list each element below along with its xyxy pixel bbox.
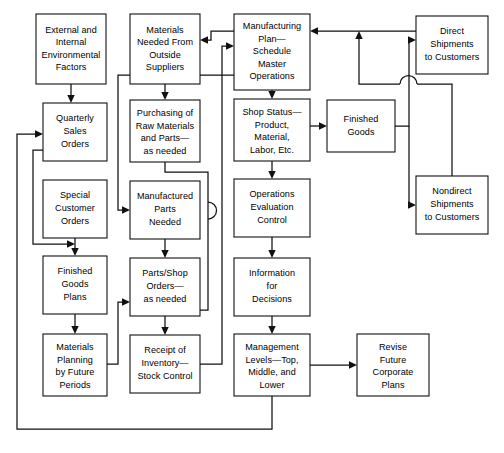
node-label-line: Receipt of: [144, 345, 186, 355]
node-label-line: Finished: [344, 114, 379, 124]
node-quarterly-sales-orders[interactable]: Quarterly Sales Orders: [43, 103, 107, 161]
node-label-line: Finished: [58, 266, 93, 276]
node-finished-goods-plans[interactable]: Finished Goods Plans: [43, 256, 107, 314]
connector-finished-goods-plans-to-materials-planning: [71, 314, 78, 334]
node-label-line: as needed: [144, 294, 187, 304]
node-label-line: Plans: [382, 380, 405, 390]
connector-finished-goods-to-nondirect-shipments: [408, 126, 416, 209]
node-label-line: Materials: [56, 342, 94, 352]
node-label-line: Material,: [254, 132, 289, 142]
connector-env-factors-to-quarterly-sales-orders: [67, 84, 74, 103]
node-label-line: to Customers: [425, 52, 480, 62]
node-nondirect-shipments-to-customers[interactable]: Nondirect Shipments to Customers: [416, 176, 488, 234]
node-label-line: and Parts—: [141, 133, 190, 143]
node-label-line: Master: [258, 59, 286, 69]
node-label-line: Middle, and: [248, 367, 296, 377]
node-revise-future-corporate-plans[interactable]: Revise Future Corporate Plans: [357, 334, 429, 396]
node-label-line: Outside: [149, 50, 181, 60]
node-label-line: Plan—: [258, 34, 286, 44]
node-label-line: Quarterly: [56, 113, 94, 123]
connector-manufactured-parts-to-parts-shop-orders: [161, 239, 168, 258]
node-label-line: Special: [60, 190, 90, 200]
flowchart-diagram: External and Internal Environmental Fact…: [0, 0, 504, 453]
node-label-line: Nondirect: [432, 186, 472, 196]
node-label-line: Goods: [347, 127, 374, 137]
node-manufacturing-plan-schedule-master-operations[interactable]: Manufacturing Plan— Schedule Master Oper…: [234, 14, 310, 90]
flowchart-canvas: External and Internal Environmental Fact…: [0, 0, 504, 453]
node-label-line: Operations: [250, 71, 295, 81]
node-label-line: Orders—: [146, 281, 184, 291]
connector-materials-planning-to-parts-shop-orders: [107, 298, 130, 364]
node-label-line: Labor, Etc.: [250, 145, 294, 155]
connector-shop-status-to-operations-evaluation: [268, 161, 275, 179]
node-management-levels-top-middle-and-lower[interactable]: Management Levels—Top, Middle, and Lower: [234, 334, 310, 396]
connector-information-to-management-levels: [268, 316, 275, 334]
node-label-line: Lower: [259, 380, 284, 390]
connector-special-customer-orders-to-finished-goods-plans: [71, 238, 78, 256]
connector-finished-goods-to-direct-shipments: [395, 36, 416, 126]
node-label-line: Future: [380, 355, 407, 365]
node-label-line: Environmental: [42, 50, 101, 60]
connector-shop-status-to-finished-goods: [310, 122, 327, 129]
line-hop-middle-column: [208, 202, 217, 219]
node-label-line: Sales: [64, 126, 87, 136]
node-label-line: Revise: [379, 342, 407, 352]
node-direct-shipments-to-customers[interactable]: Direct Shipments to Customers: [416, 16, 488, 74]
connector-direct-shipments-to-manufacturing-plan: [310, 27, 416, 34]
connector-receipt-of-inventory-to-manufacturing-plan: [200, 42, 234, 364]
node-label-line: Shipments: [430, 199, 474, 209]
node-information-for-decisions[interactable]: Information for Decisions: [234, 258, 310, 316]
node-label-line: for: [267, 281, 278, 291]
connector-manufacturing-plan-to-shop-status: [268, 90, 275, 99]
connector-management-levels-to-revise-plans: [310, 361, 357, 368]
node-label-line: Goods: [61, 279, 88, 289]
node-label-line: Evaluation: [251, 202, 294, 212]
node-label-line: Purchasing of: [137, 108, 194, 118]
node-label-line: Parts: [154, 204, 176, 214]
node-parts-shop-orders-as-needed[interactable]: Parts/Shop Orders— as needed: [130, 258, 200, 316]
node-label-line: Needed From: [137, 37, 193, 47]
node-label-line: Direct: [440, 26, 464, 36]
node-receipt-of-inventory-stock-control[interactable]: Receipt of Inventory— Stock Control: [130, 335, 200, 393]
node-operations-evaluation-control[interactable]: Operations Evaluation Control: [234, 179, 310, 237]
connector-parts-shop-orders-to-receipt-of-inventory: [161, 316, 168, 335]
connector-manufacturing-plan-to-materials-needed: [200, 31, 234, 44]
node-label-line: Stock Control: [137, 371, 192, 381]
node-external-internal-environmental-factors[interactable]: External and Internal Environmental Fact…: [36, 14, 106, 84]
node-label-line: Corporate: [373, 367, 414, 377]
node-materials-planning-by-future-periods[interactable]: Materials Planning by Future Periods: [43, 334, 107, 396]
node-special-customer-orders[interactable]: Special Customer Orders: [43, 180, 107, 238]
node-label-line: Customer: [55, 203, 95, 213]
node-label-line: Manufactured: [137, 191, 193, 201]
node-label-line: Periods: [59, 380, 91, 390]
node-label-line: Orders: [61, 216, 89, 226]
node-label-line: to Customers: [425, 212, 480, 222]
node-label-line: Levels—Top,: [245, 355, 298, 365]
connector-operations-evaluation-to-information: [268, 237, 275, 258]
node-label-line: as needed: [144, 146, 187, 156]
node-label-line: Suppliers: [146, 62, 185, 72]
node-label-line: Operations: [250, 189, 295, 199]
node-label-line: Information: [249, 268, 295, 278]
node-manufactured-parts-needed[interactable]: Manufactured Parts Needed: [130, 181, 200, 239]
node-label-line: Decisions: [252, 294, 292, 304]
node-label-line: Raw Materials: [136, 121, 195, 131]
node-label-line: Product,: [255, 120, 289, 130]
node-purchasing-of-raw-materials-and-parts[interactable]: Purchasing of Raw Materials and Parts— a…: [130, 100, 200, 162]
node-label-line: Planning: [57, 355, 93, 365]
node-label-line: Parts/Shop: [142, 268, 188, 278]
node-label-line: Shop Status—: [242, 107, 302, 117]
node-label-line: External and: [45, 25, 97, 35]
node-label-line: Inventory—: [142, 358, 190, 368]
node-label-line: Orders: [61, 139, 89, 149]
node-label-line: Management: [245, 342, 299, 352]
node-layer: External and Internal Environmental Fact…: [36, 14, 488, 396]
node-shop-status-product-material-labor-etc[interactable]: Shop Status— Product, Material, Labor, E…: [234, 99, 310, 161]
node-materials-needed-from-outside-suppliers[interactable]: Materials Needed From Outside Suppliers: [130, 14, 200, 84]
node-label-line: Shipments: [430, 39, 474, 49]
connector-materials-needed-to-purchasing: [161, 84, 168, 100]
node-label-line: Manufacturing: [243, 21, 301, 31]
node-label-line: Internal: [56, 37, 87, 47]
node-label-line: by Future: [56, 367, 95, 377]
node-finished-goods[interactable]: Finished Goods: [327, 100, 395, 152]
